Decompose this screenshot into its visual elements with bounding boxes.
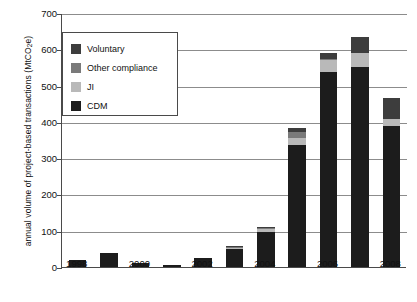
chart-legend: Voluntary Other compliance JI CDM (62, 32, 178, 116)
bar-segment-other-compliance (257, 228, 275, 229)
y-axis-label: 300 (5, 154, 57, 164)
bar-segment-ji (320, 60, 338, 72)
bar-column (383, 13, 401, 267)
bar-segment-ji (257, 229, 275, 232)
legend-swatch-voluntary (71, 44, 81, 54)
legend-swatch-cdm (71, 101, 81, 111)
bar-segment-other-compliance (288, 132, 306, 138)
bar-segment-voluntary (226, 246, 244, 247)
legend-item: Voluntary (71, 39, 177, 58)
x-axis-label: 2000 (115, 258, 163, 269)
x-axis-label: 2006 (304, 258, 352, 269)
legend-label-voluntary: Voluntary (87, 44, 125, 54)
x-axis-label: 2004 (241, 258, 289, 269)
bar-segment-other-compliance (320, 59, 338, 60)
bar-column (194, 13, 212, 267)
legend-swatch-ji (71, 82, 81, 92)
bar-segment-cdm (351, 67, 369, 267)
bar-segment-voluntary (288, 128, 306, 133)
legend-item: Other compliance (71, 58, 177, 77)
x-axis-label: 1998 (53, 258, 101, 269)
chart-container: annual volume of project-based transacti… (0, 0, 417, 302)
bar-segment-ji (383, 119, 401, 126)
bar-segment-ji (351, 53, 369, 67)
bar-segment-voluntary (383, 98, 401, 119)
y-axis-label: 600 (5, 45, 57, 55)
y-axis-label: 700 (5, 9, 57, 19)
y-axis-label: 200 (5, 190, 57, 200)
bar-segment-voluntary (351, 37, 369, 53)
legend-item: CDM (71, 96, 177, 115)
y-axis-label: 100 (5, 227, 57, 237)
x-axis-label: 2002 (178, 258, 226, 269)
legend-label-cdm: CDM (87, 101, 108, 111)
bar-segment-voluntary (257, 227, 275, 228)
y-axis-label: 0 (5, 263, 57, 273)
bar-column (257, 13, 275, 267)
bar-segment-ji (288, 138, 306, 145)
y-axis-label: 400 (5, 118, 57, 128)
bar-column (226, 13, 244, 267)
bar-column (288, 13, 306, 267)
bar-column (351, 13, 369, 267)
bar-segment-cdm (320, 72, 338, 267)
bar-segment-voluntary (320, 53, 338, 59)
legend-label-ji: JI (87, 82, 94, 92)
x-axis-label: 2008 (366, 258, 414, 269)
bar-segment-cdm (383, 126, 401, 267)
legend-swatch-other-compliance (71, 63, 81, 73)
bar-column (320, 13, 338, 267)
legend-item: JI (71, 77, 177, 96)
y-axis-label: 500 (5, 82, 57, 92)
legend-label-other-compliance: Other compliance (87, 63, 158, 73)
bar-segment-cdm (288, 145, 306, 267)
